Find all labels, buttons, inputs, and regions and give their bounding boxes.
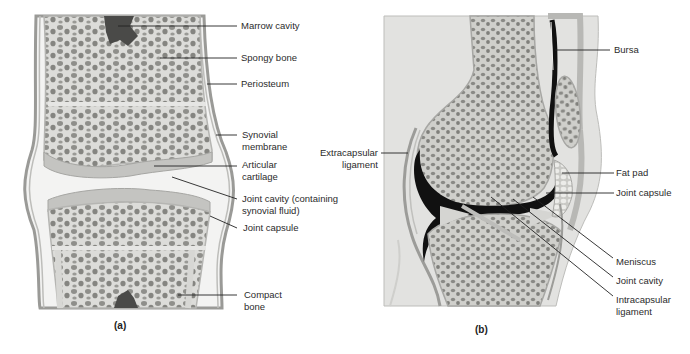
label-extracapsular-ligament-line1: Extracapsular bbox=[318, 147, 378, 159]
label-intracapsular-ligament-line2: ligament bbox=[616, 306, 671, 318]
label-synovial-membrane-line2: membrane bbox=[242, 141, 287, 153]
panel-b-drawing bbox=[384, 16, 601, 306]
label-meniscus: Meniscus bbox=[616, 256, 656, 268]
label-bursa: Bursa bbox=[614, 44, 639, 56]
label-joint-cavity-b: Joint cavity bbox=[616, 275, 663, 287]
label-marrow-cavity: Marrow cavity bbox=[241, 20, 300, 32]
synovial-joint-illustration bbox=[0, 0, 690, 354]
label-joint-capsule-a: Joint capsule bbox=[243, 222, 298, 234]
label-intracapsular-ligament: Intracapsular ligament bbox=[616, 294, 671, 317]
label-joint-cavity-a-line1: Joint cavity (containing bbox=[242, 193, 338, 205]
label-fat-pad: Fat pad bbox=[616, 167, 648, 179]
label-intracapsular-ligament-line1: Intracapsular bbox=[616, 294, 671, 306]
label-articular-cartilage-line2: cartilage bbox=[242, 171, 278, 183]
label-compact-bone-line1: Compact bbox=[244, 289, 282, 301]
caption-a: (a) bbox=[114, 320, 126, 331]
label-extracapsular-ligament: Extracapsular ligament bbox=[318, 147, 378, 170]
label-periosteum: Periosteum bbox=[241, 78, 289, 90]
label-extracapsular-ligament-line2: ligament bbox=[318, 159, 378, 171]
label-synovial-membrane-line1: Synovial bbox=[242, 129, 287, 141]
label-articular-cartilage-line1: Articular bbox=[242, 159, 278, 171]
label-joint-capsule-b: Joint capsule bbox=[616, 187, 671, 199]
label-articular-cartilage: Articular cartilage bbox=[242, 159, 278, 182]
label-compact-bone: Compact bone bbox=[244, 289, 282, 312]
label-joint-cavity-a: Joint cavity (containing synovial fluid) bbox=[242, 193, 338, 216]
caption-b: (b) bbox=[475, 324, 488, 335]
label-compact-bone-line2: bone bbox=[244, 301, 282, 313]
label-spongy-bone: Spongy bone bbox=[241, 52, 297, 64]
label-joint-cavity-a-line2: synovial fluid) bbox=[242, 205, 338, 217]
label-synovial-membrane: Synovial membrane bbox=[242, 129, 287, 152]
panel-a-drawing bbox=[25, 16, 234, 308]
